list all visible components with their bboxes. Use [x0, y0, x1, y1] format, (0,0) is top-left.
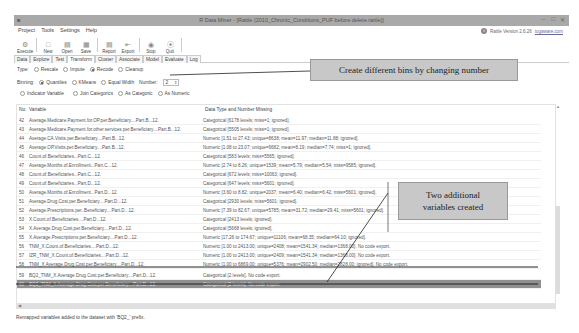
- row-variable: X.Average.Prescriptions.per.Beneficiary.…: [29, 235, 138, 240]
- header-variable[interactable]: Variable: [29, 107, 46, 112]
- radio-label: Recode: [97, 67, 114, 72]
- radio-dot: [20, 91, 25, 96]
- radio-cleanup[interactable]: Cleanup: [118, 67, 143, 72]
- execute-button[interactable]: ⚙ Execute: [17, 37, 33, 54]
- close-icon[interactable]: ✕: [560, 16, 565, 23]
- vertical-scrollbar[interactable]: ▲: [556, 104, 560, 302]
- row-no: 44: [19, 136, 28, 141]
- row-variable: Average.Prescriptions.per..Beneficiary..…: [29, 208, 135, 213]
- radio-kmeans[interactable]: KMeans: [72, 80, 97, 85]
- maximize-icon[interactable]: □: [551, 16, 555, 22]
- quit-icon: ⦿: [167, 41, 174, 49]
- report-button[interactable]: ▤ Report: [101, 37, 117, 54]
- list-row[interactable]: 46Count.of.Beneficiaries...Part.C...12.C…: [17, 152, 541, 161]
- radio-impute[interactable]: Impute: [63, 67, 85, 72]
- radio-label: Indicator Variable: [27, 91, 64, 96]
- row-no: 45: [19, 145, 28, 150]
- list-row[interactable]: 48Count.of.Beneficiaries...Part.C...12.C…: [17, 170, 541, 179]
- row-no: 52: [19, 208, 28, 213]
- list-row[interactable]: 56TNM_X.Count.of.Beneficiaries....Part.D…: [17, 242, 541, 251]
- scroll-left-icon[interactable]: ◀: [18, 303, 21, 308]
- execute-label: Execute: [17, 49, 33, 54]
- tab-log[interactable]: Log: [187, 55, 201, 63]
- row-type: Numeric [1.00 to 2413.00; unique=2409; m…: [203, 253, 390, 258]
- list-row-selected[interactable]: 60BQ2_TNM_X.Average.Drug.Cost.per.Benefi…: [17, 280, 541, 289]
- minimize-icon[interactable]: –: [542, 16, 545, 22]
- quit-button[interactable]: ⦿ Quit: [162, 37, 178, 54]
- tab-evaluate[interactable]: Evaluate: [162, 55, 187, 63]
- menu-project[interactable]: Project: [18, 27, 35, 36]
- stepper-arrows-icon[interactable]: ⇕: [174, 80, 178, 85]
- radio-recode[interactable]: Recode: [90, 67, 114, 72]
- radio-equal-width[interactable]: Equal Width: [101, 80, 134, 85]
- toolbar-separator: [36, 38, 37, 52]
- list-row[interactable]: 43Average.Medicare.Payment.for.other.ser…: [17, 125, 541, 134]
- toolbar-separator: [181, 38, 182, 52]
- row-type: Categorical [5505 levels; miss=1; ignore…: [203, 127, 290, 132]
- list-row[interactable]: 54X.Average.Drug.Cost.per.Beneficiary...…: [17, 224, 541, 233]
- tab-associate[interactable]: Associate: [116, 55, 143, 63]
- radio-rescale[interactable]: Rescale: [34, 67, 58, 72]
- window-title: R Data Miner - [Rattle (2010_Chronic_Con…: [14, 17, 569, 23]
- row-type: Categorical [672 levels; miss=10063; ign…: [203, 172, 297, 177]
- row-variable: Count.of.Beneficiaries...Part.D...12.: [29, 181, 101, 186]
- radio-dot: [34, 67, 39, 72]
- save-button[interactable]: ▦ Save: [78, 37, 94, 54]
- number-stepper[interactable]: 2 ⇕: [163, 79, 179, 86]
- list-row[interactable]: 59BQ2_TNM_X.Average.Drug.Cost.per.Benefi…: [17, 271, 541, 280]
- radio-dot-selected: [90, 67, 95, 72]
- menu-tools[interactable]: Tools: [41, 27, 54, 36]
- status-bar: Remapped variables added to the dataset …: [16, 315, 145, 320]
- horizontal-scrollbar[interactable]: ◀: [16, 304, 556, 309]
- radio-dot: [73, 91, 78, 96]
- tab-model[interactable]: Model: [143, 55, 162, 63]
- stop-button[interactable]: ◉ Stop: [143, 37, 159, 54]
- list-header: No. Variable Data Type and Number Missin…: [17, 105, 555, 115]
- radio-quantiles[interactable]: Quantiles: [39, 80, 66, 85]
- export-button[interactable]: ⇤ Export: [120, 37, 136, 54]
- row-variable: Average.Medicare.Payment.for.other.servi…: [29, 127, 181, 132]
- row-type: Numeric [1.00 to 2413.00; unique=2408; m…: [203, 244, 390, 249]
- radio-dot-selected: [39, 80, 44, 85]
- tab-data[interactable]: Data: [14, 55, 30, 63]
- menu-settings[interactable]: Settings: [60, 27, 80, 36]
- row-type: Numeric [7.39 to 82.67; unique=5785; mea…: [203, 208, 384, 213]
- menu-help[interactable]: Help: [86, 27, 97, 36]
- list-row[interactable]: 57IZR_TNM_X.Count.of.Beneficiaries....Pa…: [17, 251, 541, 260]
- new-button[interactable]: □ New: [40, 37, 56, 54]
- tab-explore[interactable]: Explore: [30, 55, 52, 63]
- scroll-thumb[interactable]: [556, 206, 560, 294]
- tab-transform[interactable]: Transform: [67, 55, 95, 63]
- callout-variables-created: Two additional variables created: [398, 182, 508, 220]
- togaware-link[interactable]: togaware.com: [535, 29, 563, 34]
- row-no: 58: [19, 262, 28, 267]
- row-type: Categorical [583 levels; miss=5565; igno…: [203, 154, 295, 159]
- list-row[interactable]: 58TNM_X.Average.Drug.Cost.per.Beneficiar…: [17, 260, 541, 269]
- radio-join-categorics[interactable]: Join Categorics: [73, 91, 113, 96]
- tab-test[interactable]: Test: [52, 55, 67, 63]
- list-row[interactable]: 44Average.CA.Visits.per.Beneficiary....P…: [17, 134, 541, 143]
- scroll-up-icon[interactable]: ▲: [556, 104, 560, 109]
- row-no: 46: [19, 154, 28, 159]
- radio-as-numeric[interactable]: As Numeric: [158, 91, 190, 96]
- list-row[interactable]: 42Average.Medicare.Payment.for.OP.per.Be…: [17, 116, 541, 125]
- radio-dot: [72, 80, 77, 85]
- row-type: Categorical [647 levels; miss=5601; igno…: [203, 181, 295, 186]
- header-no[interactable]: No.: [19, 107, 26, 112]
- row-no: 51: [19, 199, 28, 204]
- title-bar: ■ R Data Miner - [Rattle (2010_Chronic_C…: [14, 15, 569, 26]
- list-row[interactable]: 55X.Average.Prescriptions.per.Beneficiar…: [17, 233, 541, 242]
- list-row[interactable]: 47Average.Months.of.Enrollment...Part.C.…: [17, 161, 541, 170]
- header-type[interactable]: Data Type and Number Missing: [205, 107, 272, 112]
- row-type: Categorical [2 levels]. No code export.: [203, 282, 281, 287]
- radio-label: KMeans: [79, 80, 97, 85]
- type-label: Type:: [17, 67, 29, 72]
- radio-indicator-variable[interactable]: Indicator Variable: [20, 91, 64, 96]
- open-label: Open: [61, 49, 72, 54]
- tab-cluster[interactable]: Cluster: [95, 55, 116, 63]
- radio-as-categoric[interactable]: As Categoric: [118, 91, 152, 96]
- list-row[interactable]: 45Average.OP.Visits.per.Beneficiary....P…: [17, 143, 541, 152]
- open-button[interactable]: ▤ Open: [59, 37, 75, 54]
- row-variable: Average.CA.Visits.per.Beneficiary....Par…: [29, 136, 125, 141]
- row-no: 60: [19, 282, 28, 287]
